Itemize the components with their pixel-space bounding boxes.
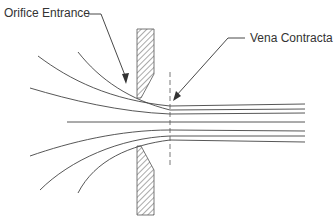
orifice-entrance-leader — [88, 14, 129, 84]
vena-contracta-leader — [173, 38, 245, 101]
vena-contracta-label: Vena Contracta — [250, 31, 333, 45]
upper-orifice-plate — [137, 29, 154, 98]
orifice-entrance-label: Orifice Entrance — [4, 6, 90, 20]
lower-orifice-plate — [137, 146, 154, 215]
streamlines — [30, 52, 305, 193]
